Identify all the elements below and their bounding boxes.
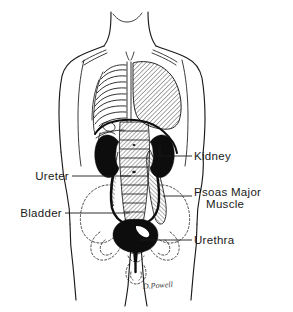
vertebral-column [119, 122, 149, 228]
label-kidney: Kidney [194, 150, 231, 162]
label-ureter: Ureter [35, 170, 69, 182]
label-psoas-major-line2: Muscle [206, 198, 244, 210]
label-urethra: Urethra [194, 234, 235, 246]
anatomy-illustration: Kidney Psoas Major Muscle Urethra Ureter… [0, 0, 293, 312]
anatomy-figure: Kidney Psoas Major Muscle Urethra Ureter… [0, 0, 293, 312]
label-psoas-major-line1: Psoas Major [194, 186, 261, 198]
bladder [113, 219, 158, 253]
label-bladder: Bladder [20, 207, 62, 219]
